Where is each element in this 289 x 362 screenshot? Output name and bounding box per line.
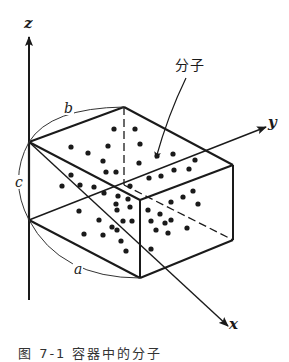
dimension-b-label: b [63, 101, 74, 115]
dimension-c-label: c [14, 175, 24, 189]
z-axis-label: z [24, 16, 33, 31]
y-axis [29, 127, 266, 220]
dimension-arcs [19, 107, 141, 278]
x-axis [29, 142, 228, 326]
dimension-a-label: a [73, 262, 83, 276]
molecule-label: 分子 [175, 58, 205, 72]
molecule-pointer [156, 78, 186, 158]
figure-caption: 图 7-1 容器中的分子 [18, 343, 163, 362]
y-axis-label: y [268, 115, 277, 130]
box-edges [29, 107, 233, 278]
x-axis-label: x [229, 317, 238, 332]
